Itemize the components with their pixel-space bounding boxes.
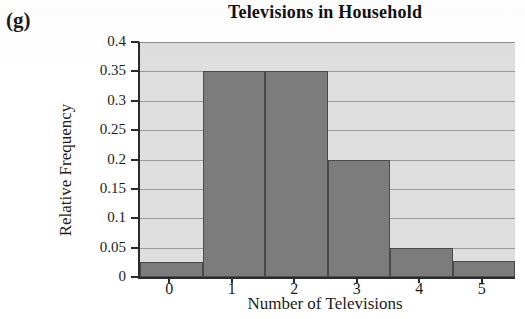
y-tick-mark xyxy=(131,100,139,102)
y-tick-label: 0.15 xyxy=(78,181,126,196)
bar xyxy=(203,71,266,277)
y-tick-label-wrap: 0.1 xyxy=(78,210,126,225)
y-tick-label-wrap: 0.2 xyxy=(78,152,126,167)
gridline xyxy=(140,101,515,102)
gridline xyxy=(140,42,515,43)
plot-inner xyxy=(140,42,515,277)
y-tick-label-wrap: 0 xyxy=(78,269,126,284)
y-tick-mark xyxy=(131,276,139,278)
bar xyxy=(140,262,203,277)
x-tick-label: 3 xyxy=(337,280,377,298)
y-tick-label: 0.2 xyxy=(78,152,126,167)
y-tick-label-wrap: 0.4 xyxy=(78,34,126,49)
y-tick-mark xyxy=(131,159,139,161)
y-tick-label: 0 xyxy=(78,269,126,284)
x-axis-label: Number of Televisions xyxy=(138,294,512,314)
y-tick-label-wrap: 0.05 xyxy=(78,240,126,255)
y-tick-label: 0.35 xyxy=(78,63,126,78)
y-tick-mark xyxy=(131,129,139,131)
gridline xyxy=(140,71,515,72)
y-tick-label: 0.05 xyxy=(78,240,126,255)
x-tick-label: 1 xyxy=(212,280,252,298)
x-tick-label: 5 xyxy=(462,280,502,298)
bar xyxy=(265,71,328,277)
y-axis-label: Relative Frequency xyxy=(56,60,76,280)
bar xyxy=(328,160,391,278)
y-tick-mark xyxy=(131,70,139,72)
y-tick-mark xyxy=(131,188,139,190)
x-tick-label: 4 xyxy=(399,280,439,298)
y-tick-label-wrap: 0.25 xyxy=(78,122,126,137)
y-tick-label-wrap: 0.35 xyxy=(78,63,126,78)
plot-area xyxy=(138,42,515,279)
y-tick-label: 0.25 xyxy=(78,122,126,137)
x-tick-label: 2 xyxy=(274,280,314,298)
gridline xyxy=(140,130,515,131)
bar xyxy=(453,261,516,277)
y-tick-mark xyxy=(131,247,139,249)
y-tick-label: 0.1 xyxy=(78,210,126,225)
x-tick-label: 0 xyxy=(149,280,189,298)
y-tick-mark xyxy=(131,41,139,43)
y-tick-label: 0.4 xyxy=(78,34,126,49)
y-tick-mark xyxy=(131,217,139,219)
y-tick-label-wrap: 0.15 xyxy=(78,181,126,196)
bar xyxy=(390,248,453,277)
y-tick-label-wrap: 0.3 xyxy=(78,93,126,108)
panel-label: (g) xyxy=(6,8,31,33)
y-tick-label: 0.3 xyxy=(78,93,126,108)
chart-title: Televisions in Household xyxy=(138,2,512,23)
